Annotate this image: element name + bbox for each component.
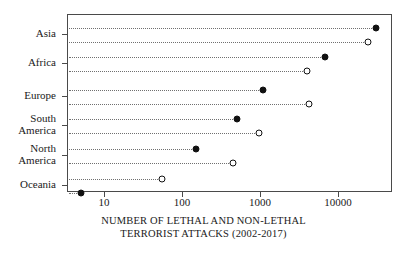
data-point-open-oceania[interactable] xyxy=(158,175,165,182)
data-point-filled-north-america[interactable] xyxy=(192,145,199,152)
x-tick-label-100: 100 xyxy=(174,196,191,208)
y-label-north-america-line2: America xyxy=(18,155,56,167)
y-label-south-america-line2: America xyxy=(18,125,56,137)
leader-line xyxy=(69,163,231,164)
data-point-filled-oceania[interactable] xyxy=(77,189,84,196)
data-point-filled-europe[interactable] xyxy=(260,86,267,93)
figure: Asia Africa Europe South America North A… xyxy=(0,0,407,255)
leader-line xyxy=(69,57,323,58)
y-tick-europe xyxy=(62,96,67,97)
caption-line-1: NUMBER OF LETHAL AND NON-LETHAL xyxy=(0,214,407,227)
x-tick-label-1000: 1000 xyxy=(249,196,271,208)
data-point-filled-south-america[interactable] xyxy=(233,115,240,122)
data-point-filled-asia[interactable] xyxy=(373,24,380,31)
leader-line xyxy=(69,28,374,29)
y-label-africa: Africa xyxy=(28,57,56,69)
x-tick-label-10000: 10000 xyxy=(324,196,352,208)
y-tick-north-america xyxy=(62,155,67,156)
y-label-north-america-line1: North xyxy=(30,143,56,155)
leader-line xyxy=(69,149,194,150)
y-tick-south-america xyxy=(62,125,67,126)
data-point-filled-africa[interactable] xyxy=(321,53,328,60)
leader-line xyxy=(69,104,307,105)
caption-line-2: TERRORIST ATTACKS (2002-2017) xyxy=(0,227,407,240)
y-label-oceania: Oceania xyxy=(20,179,56,191)
y-label-south-america-line1: South xyxy=(30,113,56,125)
leader-line xyxy=(69,179,160,180)
data-point-open-asia[interactable] xyxy=(364,38,371,45)
x-axis-caption: NUMBER OF LETHAL AND NON-LETHAL TERRORIS… xyxy=(0,214,407,240)
data-point-open-south-america[interactable] xyxy=(256,129,263,136)
x-tick-label-10: 10 xyxy=(99,196,110,208)
leader-line xyxy=(69,71,305,72)
data-point-open-north-america[interactable] xyxy=(229,159,236,166)
y-tick-africa xyxy=(62,63,67,64)
leader-line xyxy=(69,119,235,120)
y-tick-oceania xyxy=(62,185,67,186)
data-point-open-africa[interactable] xyxy=(303,67,310,74)
leader-line xyxy=(69,90,261,91)
leader-line xyxy=(69,133,257,134)
y-tick-asia xyxy=(62,34,67,35)
leader-line xyxy=(69,42,366,43)
data-point-open-europe[interactable] xyxy=(305,100,312,107)
y-label-europe: Europe xyxy=(24,90,56,102)
y-label-asia: Asia xyxy=(36,28,56,40)
